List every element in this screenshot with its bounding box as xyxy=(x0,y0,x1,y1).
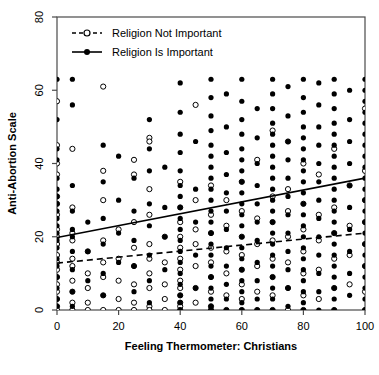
data-point xyxy=(54,187,59,192)
data-point xyxy=(116,278,121,283)
data-point xyxy=(147,252,152,257)
data-point xyxy=(332,143,337,148)
data-point xyxy=(285,157,290,162)
data-point xyxy=(270,230,275,235)
data-point xyxy=(239,212,244,217)
x-tick-label: 80 xyxy=(297,320,309,332)
data-point xyxy=(332,230,337,235)
data-point xyxy=(285,139,290,144)
data-point xyxy=(131,245,136,250)
data-point xyxy=(101,179,106,184)
data-point xyxy=(70,209,75,214)
data-point xyxy=(301,212,306,217)
data-point xyxy=(70,256,75,261)
data-point xyxy=(101,260,106,265)
data-point xyxy=(332,187,337,192)
data-point xyxy=(285,249,290,254)
data-point xyxy=(178,168,183,173)
x-axis-title: Feeling Thermometer: Christians xyxy=(125,340,297,352)
data-point xyxy=(301,256,306,261)
y-axis-title: Anti-Abortion Scale xyxy=(6,112,18,215)
data-point xyxy=(285,187,290,192)
data-point xyxy=(208,187,213,192)
data-point xyxy=(255,106,260,111)
data-point xyxy=(131,307,136,312)
data-point xyxy=(54,296,59,301)
data-point xyxy=(208,209,213,214)
data-point xyxy=(239,168,244,173)
data-point xyxy=(147,117,152,122)
data-point xyxy=(239,223,244,228)
data-point xyxy=(285,267,290,272)
data-point xyxy=(147,139,152,144)
data-point xyxy=(54,99,59,104)
data-point xyxy=(332,154,337,159)
data-point xyxy=(347,161,352,166)
data-point xyxy=(70,304,75,309)
data-point xyxy=(178,183,183,188)
data-point xyxy=(255,238,260,243)
data-point xyxy=(255,183,260,188)
data-point xyxy=(301,300,306,305)
data-point xyxy=(147,146,152,151)
data-point xyxy=(178,238,183,243)
data-point xyxy=(239,190,244,195)
data-point xyxy=(178,260,183,265)
data-point xyxy=(147,212,152,217)
data-point xyxy=(301,124,306,129)
data-point xyxy=(54,285,59,290)
data-point xyxy=(285,230,290,235)
data-point xyxy=(131,209,136,214)
data-point xyxy=(332,77,337,82)
data-point xyxy=(285,260,290,265)
data-point xyxy=(101,293,106,298)
data-point xyxy=(316,252,321,257)
data-point xyxy=(193,220,198,225)
data-point xyxy=(316,307,321,312)
data-point xyxy=(270,106,275,111)
data-point xyxy=(255,135,260,140)
data-point xyxy=(162,234,167,239)
data-point xyxy=(332,132,337,137)
data-point xyxy=(147,307,152,312)
data-point xyxy=(362,274,367,279)
data-point xyxy=(255,161,260,166)
data-point xyxy=(224,124,229,129)
legend-marker-open-circle xyxy=(84,30,90,36)
data-point xyxy=(70,227,75,232)
data-point xyxy=(178,282,183,287)
data-point xyxy=(270,165,275,170)
data-point xyxy=(301,77,306,82)
data-point xyxy=(301,267,306,272)
data-point xyxy=(224,198,229,203)
data-point xyxy=(362,121,367,126)
data-point xyxy=(54,146,59,151)
data-point xyxy=(178,249,183,254)
data-point xyxy=(270,220,275,225)
data-point xyxy=(316,161,321,166)
data-point xyxy=(347,271,352,276)
data-point xyxy=(224,307,229,312)
data-point xyxy=(147,223,152,228)
data-point xyxy=(239,132,244,137)
data-point xyxy=(332,263,337,268)
data-point xyxy=(193,139,198,144)
data-point xyxy=(162,267,167,272)
data-point xyxy=(54,77,59,82)
data-point xyxy=(301,179,306,184)
data-point xyxy=(70,102,75,107)
data-point xyxy=(347,293,352,298)
data-point xyxy=(270,241,275,246)
data-point xyxy=(208,307,213,312)
data-point xyxy=(131,238,136,243)
data-point xyxy=(316,198,321,203)
data-point xyxy=(208,296,213,301)
data-point xyxy=(332,176,337,181)
data-point xyxy=(131,289,136,294)
data-point xyxy=(193,252,198,257)
data-point xyxy=(347,205,352,210)
data-point xyxy=(270,307,275,312)
data-point xyxy=(239,179,244,184)
data-point xyxy=(116,260,121,265)
data-point xyxy=(301,168,306,173)
